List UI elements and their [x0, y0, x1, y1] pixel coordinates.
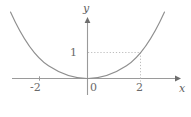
parabola-figure: y x -2 0 2 1 [0, 0, 191, 117]
y-tick-label-one: 1 [70, 47, 77, 58]
origin-label: 0 [90, 82, 97, 93]
x-tick-label-neg2: -2 [30, 82, 41, 93]
x-tick-label-two: 2 [136, 82, 143, 93]
y-axis-arrow-icon [85, 17, 91, 23]
y-axis-label: y [83, 3, 89, 14]
x-axis-label: x [179, 83, 185, 94]
plot-canvas [0, 0, 191, 117]
x-axis-arrow-icon [175, 76, 181, 82]
